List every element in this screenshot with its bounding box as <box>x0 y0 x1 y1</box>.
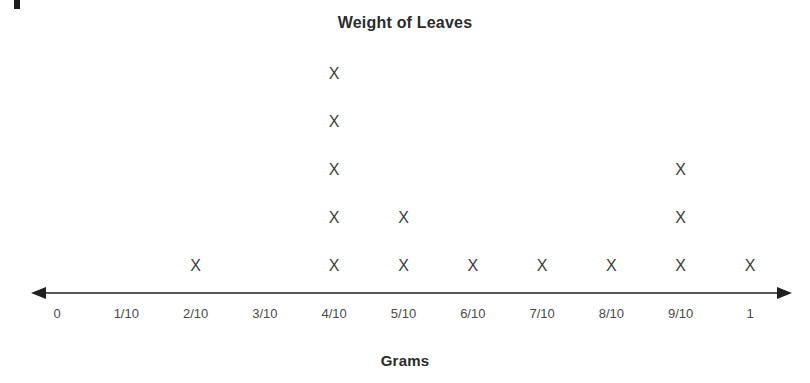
x-axis-tick-label: 9/10 <box>646 306 716 321</box>
data-mark-x: X <box>666 258 696 274</box>
scan-artifact <box>14 0 20 9</box>
x-axis-tick-label: 8/10 <box>576 306 646 321</box>
data-mark-x: X <box>319 66 349 82</box>
x-axis-tick-label: 3/10 <box>230 306 300 321</box>
axis-arrow-left-icon <box>31 287 46 299</box>
data-mark-x: X <box>666 162 696 178</box>
x-axis-tick-label: 1 <box>715 306 785 321</box>
x-axis-tick-label: 7/10 <box>507 306 577 321</box>
x-axis-title: Grams <box>0 352 810 369</box>
x-axis-number-line <box>0 279 810 307</box>
x-axis-tick-label: 2/10 <box>161 306 231 321</box>
data-mark-x: X <box>319 210 349 226</box>
data-mark-x: X <box>527 258 557 274</box>
dot-plot-figure: Weight of Leaves 01/102/103/104/105/106/… <box>0 0 810 383</box>
data-mark-x: X <box>666 210 696 226</box>
axis-arrow-svg <box>0 279 810 307</box>
data-mark-x: X <box>389 210 419 226</box>
chart-title: Weight of Leaves <box>0 14 810 32</box>
data-mark-x: X <box>181 258 211 274</box>
x-axis-tick-label: 6/10 <box>438 306 508 321</box>
data-mark-x: X <box>319 114 349 130</box>
x-axis-tick-label: 4/10 <box>299 306 369 321</box>
data-mark-x: X <box>458 258 488 274</box>
data-mark-x: X <box>389 258 419 274</box>
axis-arrow-right-icon <box>777 287 792 299</box>
x-axis-tick-label: 5/10 <box>369 306 439 321</box>
data-mark-x: X <box>596 258 626 274</box>
data-mark-x: X <box>319 258 349 274</box>
data-mark-x: X <box>735 258 765 274</box>
x-axis-tick-label: 0 <box>22 306 92 321</box>
data-mark-x: X <box>319 162 349 178</box>
x-axis-tick-label: 1/10 <box>91 306 161 321</box>
